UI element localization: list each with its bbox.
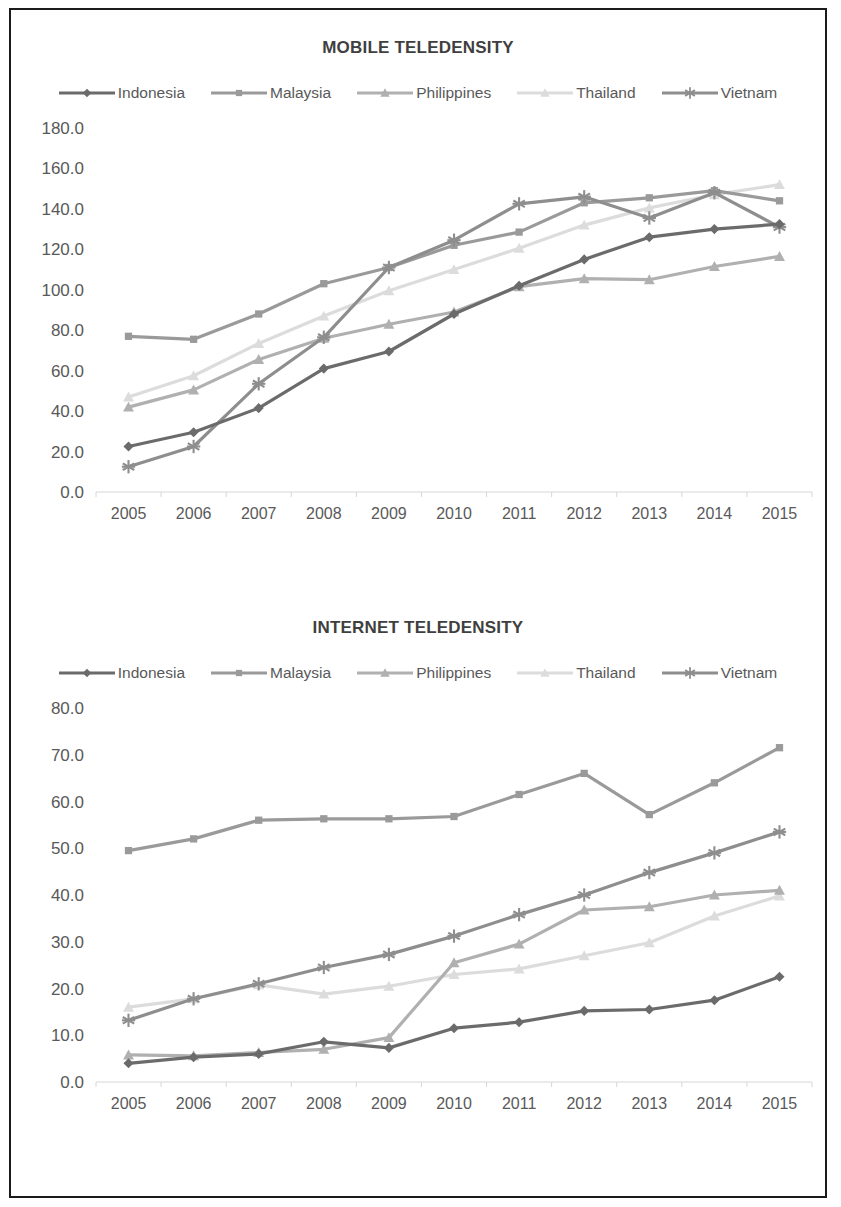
legend-label: Vietnam xyxy=(721,84,778,102)
series-line xyxy=(129,256,780,407)
data-point-marker xyxy=(125,333,132,340)
chart-internet-teledensity: INTERNET TELEDENSITY IndonesiaMalaysiaPh… xyxy=(10,596,826,1186)
data-point-marker xyxy=(123,1058,133,1068)
x-axis-tick-label: 2013 xyxy=(631,1095,667,1112)
data-point-marker xyxy=(189,427,199,437)
y-axis-tick-label: 20.0 xyxy=(51,443,84,462)
data-point-marker xyxy=(578,888,591,901)
legend-item-philippines[interactable]: Philippines xyxy=(357,84,491,102)
legend-label: Vietnam xyxy=(721,664,778,682)
data-point-marker xyxy=(708,186,721,199)
legend-item-malaysia[interactable]: Malaysia xyxy=(211,84,331,102)
data-point-marker xyxy=(125,847,132,854)
chart-title-mobile: MOBILE TELEDENSITY xyxy=(10,38,826,58)
data-point-marker xyxy=(644,1004,654,1014)
legend-marker-diamond-icon xyxy=(59,86,115,100)
data-point-marker xyxy=(512,908,525,921)
y-axis-tick-label: 10.0 xyxy=(51,1026,84,1045)
data-point-marker xyxy=(122,1014,135,1027)
x-axis-tick-label: 2007 xyxy=(241,505,277,522)
y-axis-tick-label: 40.0 xyxy=(51,886,84,905)
y-axis-tick-label: 80.0 xyxy=(51,321,84,340)
legend-item-malaysia[interactable]: Malaysia xyxy=(211,664,331,682)
data-point-marker xyxy=(709,224,719,234)
legend-marker-asterisk-icon xyxy=(662,86,718,100)
data-point-marker xyxy=(384,1043,394,1053)
legend-label: Indonesia xyxy=(118,664,185,682)
data-point-marker xyxy=(382,948,395,961)
data-point-marker xyxy=(579,254,589,264)
data-point-marker xyxy=(320,815,327,822)
legend-item-thailand[interactable]: Thailand xyxy=(517,664,635,682)
y-axis-tick-label: 0.0 xyxy=(60,483,84,502)
legend-item-vietnam[interactable]: Vietnam xyxy=(662,84,778,102)
data-point-marker xyxy=(776,744,783,751)
legend-label: Thailand xyxy=(576,664,635,682)
data-point-marker xyxy=(579,1006,589,1016)
legend-item-philippines[interactable]: Philippines xyxy=(357,664,491,682)
y-axis-tick-label: 120.0 xyxy=(41,240,84,259)
series-thailand xyxy=(123,179,785,401)
y-axis-tick-label: 70.0 xyxy=(51,746,84,765)
legend-label: Indonesia xyxy=(118,84,185,102)
x-axis-tick-label: 2005 xyxy=(111,505,147,522)
data-point-marker xyxy=(190,336,197,343)
y-axis-tick-label: 20.0 xyxy=(51,980,84,999)
legend-item-indonesia[interactable]: Indonesia xyxy=(59,84,185,102)
legend-marker-triangle-icon xyxy=(517,666,573,680)
x-axis-tick-label: 2007 xyxy=(241,1095,277,1112)
x-axis-tick-label: 2013 xyxy=(631,505,667,522)
data-point-marker xyxy=(643,866,656,879)
legend-item-indonesia[interactable]: Indonesia xyxy=(59,664,185,682)
legend-marker-triangle-icon xyxy=(357,86,413,100)
data-point-marker xyxy=(708,846,721,859)
y-axis-tick-label: 30.0 xyxy=(51,933,84,952)
data-point-marker xyxy=(512,197,525,210)
chart-title-internet: INTERNET TELEDENSITY xyxy=(10,618,826,638)
data-point-marker xyxy=(385,815,392,822)
data-point-marker xyxy=(646,811,653,818)
legend-item-thailand[interactable]: Thailand xyxy=(517,84,635,102)
data-point-marker xyxy=(773,825,786,838)
data-point-marker xyxy=(709,995,719,1005)
x-axis-tick-label: 2010 xyxy=(436,505,472,522)
y-axis-tick-label: 50.0 xyxy=(51,839,84,858)
series-line xyxy=(129,748,780,851)
data-point-marker xyxy=(317,961,330,974)
data-point-marker xyxy=(255,817,262,824)
legend-marker-triangle-icon xyxy=(517,86,573,100)
legend-label: Philippines xyxy=(416,84,491,102)
y-axis-tick-label: 160.0 xyxy=(41,159,84,178)
plot-area-internet: 0.010.020.030.040.050.060.070.080.020052… xyxy=(10,698,826,1128)
data-point-marker xyxy=(187,992,200,1005)
chart-canvas-mobile-teledensity: 0.020.040.060.080.0100.0120.0140.0160.01… xyxy=(10,118,826,538)
x-axis-tick-label: 2012 xyxy=(566,1095,602,1112)
x-axis-tick-label: 2009 xyxy=(371,505,407,522)
legend-item-vietnam[interactable]: Vietnam xyxy=(662,664,778,682)
data-point-marker xyxy=(189,1052,199,1062)
series-philippines xyxy=(123,251,785,412)
x-axis-tick-label: 2011 xyxy=(502,505,537,522)
data-point-marker xyxy=(711,779,718,786)
data-point-marker xyxy=(776,197,783,204)
x-axis-tick-label: 2009 xyxy=(371,1095,407,1112)
x-axis-tick-label: 2012 xyxy=(566,505,602,522)
legend-label: Malaysia xyxy=(270,664,331,682)
x-axis-tick-label: 2015 xyxy=(762,1095,798,1112)
data-point-marker xyxy=(515,228,522,235)
y-axis-tick-label: 0.0 xyxy=(60,1073,84,1092)
data-point-marker xyxy=(514,1017,524,1027)
data-point-marker xyxy=(190,835,197,842)
page-root: MOBILE TELEDENSITY IndonesiaMalaysiaPhil… xyxy=(0,0,841,1207)
data-point-marker xyxy=(449,1023,459,1033)
data-point-marker xyxy=(646,194,653,201)
x-axis-tick-label: 2010 xyxy=(436,1095,472,1112)
legend-marker-square-icon xyxy=(211,86,267,100)
data-point-marker xyxy=(447,929,460,942)
data-point-marker xyxy=(643,211,656,224)
data-point-marker xyxy=(254,1049,264,1059)
data-point-marker xyxy=(123,441,133,451)
legend-label: Philippines xyxy=(416,664,491,682)
x-axis-tick-label: 2008 xyxy=(306,1095,342,1112)
chart-canvas-internet-teledensity: 0.010.020.030.040.050.060.070.080.020052… xyxy=(10,698,826,1128)
